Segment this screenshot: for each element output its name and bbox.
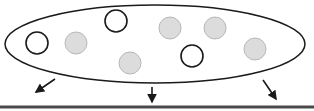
open-circle-open-2 (105, 10, 127, 32)
arrow-left-icon (36, 79, 55, 92)
population-diagram (0, 0, 314, 111)
filled-circle-filled-5 (244, 38, 266, 60)
filled-circle-filled-2 (119, 52, 141, 74)
filled-circle-filled-4 (204, 17, 226, 39)
filled-circle-filled-1 (65, 32, 87, 54)
arrow-right-icon (263, 80, 276, 99)
open-circle-open-3 (181, 45, 203, 67)
filled-circle-filled-3 (159, 17, 181, 39)
open-circle-open-1 (26, 32, 48, 54)
